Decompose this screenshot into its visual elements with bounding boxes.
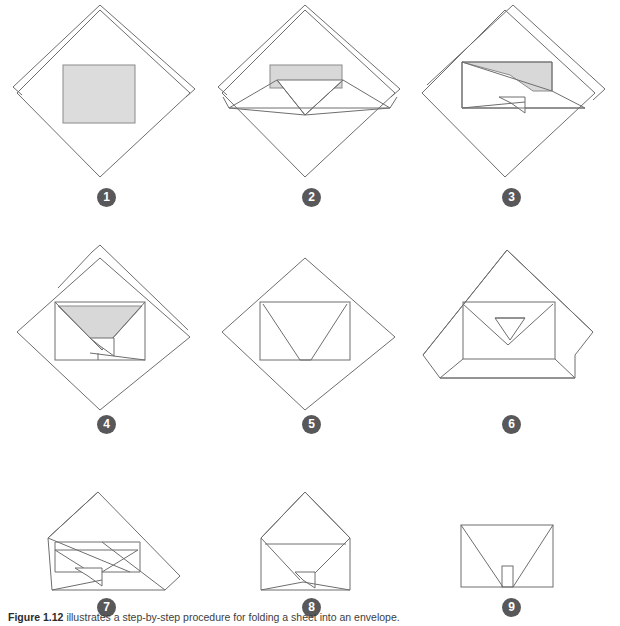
step-4-panel: 4 [10, 240, 205, 415]
sheet-edge-cap-right [593, 89, 605, 100]
envelope-back [260, 302, 350, 360]
step-9-panel: 9 [415, 480, 610, 605]
step-8-panel: 8 [215, 480, 410, 605]
step-badge-2: 2 [302, 188, 321, 207]
step-1-diagram [10, 5, 205, 185]
figure-caption-label: Figure 1.12 [8, 611, 63, 623]
crease-right [311, 304, 347, 360]
step-6-diagram [415, 240, 610, 415]
step-2-diagram [215, 5, 410, 185]
figure-sheet: 1 2 [0, 0, 620, 626]
figure-caption-text: illustrates a step-by-step procedure for… [66, 611, 399, 623]
step-3-diagram [415, 5, 610, 185]
crease-left [461, 525, 503, 587]
step-9-diagram [415, 480, 610, 605]
bottom-crease [52, 580, 102, 590]
crease-right [513, 525, 553, 587]
bottom-flap-left [440, 359, 463, 378]
crease-left [263, 304, 300, 360]
step-badge-5: 5 [302, 415, 321, 434]
step-badge-6: 6 [502, 415, 521, 434]
step-1-panel: 1 [10, 5, 205, 185]
step-5-diagram [215, 240, 410, 415]
bottom-flap-right-edge [390, 97, 397, 108]
flap-notch [499, 97, 525, 113]
open-flap [261, 492, 350, 538]
step-badge-4: 4 [97, 415, 116, 434]
bottom-crease [261, 582, 350, 590]
bottom-flap-right [555, 359, 575, 378]
crease-right [102, 550, 138, 572]
flap-notch [295, 572, 315, 588]
envelope-outline [461, 525, 553, 587]
step-3-panel: 3 [415, 5, 610, 185]
step-8-diagram [215, 480, 410, 605]
step-7-panel: 7 [10, 480, 205, 605]
step-6-panel: 6 [415, 240, 610, 415]
step-2-panel: 2 [215, 5, 410, 185]
letter-sheet [63, 65, 135, 123]
sheet-outline [422, 10, 595, 177]
step-5-panel: 5 [215, 240, 410, 415]
seal-tab [502, 566, 513, 587]
step-7-diagram [10, 480, 205, 605]
figure-caption: Figure 1.12 illustrates a step-by-step p… [8, 611, 608, 623]
outline-upper-left [48, 492, 98, 538]
step-4-diagram [10, 240, 205, 415]
step-badge-1: 1 [97, 188, 116, 207]
flap-notch [75, 568, 102, 586]
sheet-outline [48, 492, 180, 590]
crease-major [48, 538, 130, 572]
step-badge-3: 3 [502, 188, 521, 207]
sheet-outline [222, 258, 395, 410]
